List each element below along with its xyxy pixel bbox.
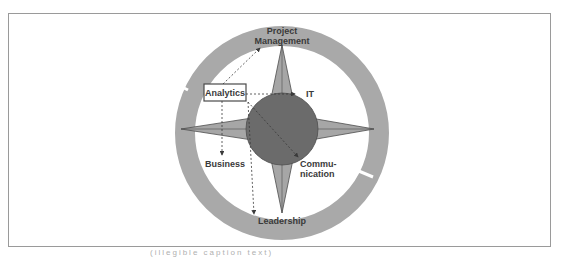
label-management: Management — [254, 36, 309, 46]
center-circle — [246, 93, 318, 165]
figure-caption: (illegible caption text) — [150, 248, 440, 257]
label-it: IT — [306, 89, 315, 99]
compass-diagram: Project Management Analytics IT Business… — [0, 0, 561, 257]
label-business: Business — [205, 159, 245, 169]
ring-gap-upper-left — [168, 80, 188, 90]
label-leadership: Leadership — [258, 216, 307, 226]
label-communication-1: Commu- — [300, 159, 337, 169]
label-project: Project — [267, 26, 298, 36]
label-communication-2: nication — [300, 169, 335, 179]
label-analytics: Analytics — [205, 88, 245, 98]
